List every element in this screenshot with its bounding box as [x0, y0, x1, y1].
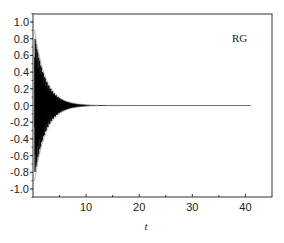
legend-label: RG — [232, 32, 247, 44]
y-tick-label: 0.2 — [14, 83, 29, 95]
y-tick-label: 0.8 — [14, 33, 29, 45]
chart: 1.00.80.60.40.20.0-0.2-0.4-0.6-0.8-1.0 1… — [0, 0, 284, 243]
y-tick-label: -0.4 — [10, 133, 29, 145]
y-tick-label: 0.6 — [14, 49, 29, 61]
y-tick-label: -0.8 — [10, 166, 29, 178]
x-tick-label: 30 — [186, 201, 198, 213]
y-tick-label: -0.2 — [10, 116, 29, 128]
y-tick-label: 0.0 — [14, 100, 29, 112]
x-tick-label: 20 — [133, 201, 145, 213]
y-axis: 1.00.80.60.40.20.0-0.2-0.4-0.6-0.8-1.0 — [10, 14, 33, 198]
x-tick-label: 40 — [239, 201, 251, 213]
x-tick-label: 10 — [80, 201, 92, 213]
x-axis-label: t — [144, 220, 148, 232]
y-tick-label: 1.0 — [14, 16, 29, 28]
y-tick-label: 0.4 — [14, 66, 29, 78]
y-tick-label: -1.0 — [10, 183, 29, 195]
y-tick-label: -0.6 — [10, 150, 29, 162]
